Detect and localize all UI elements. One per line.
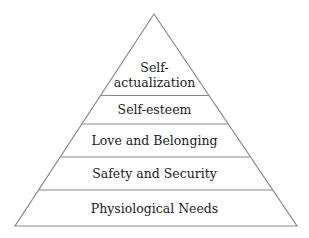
level-love-belonging: Love and Belonging [0,133,309,148]
level-self-actualization-line1: Self- [0,60,309,75]
pyramid-outline [15,14,297,226]
level-safety-security: Safety and Security [0,166,309,181]
level-physiological-needs: Physiological Needs [0,201,309,216]
level-self-actualization-line2: actualization [0,75,309,90]
level-self-esteem: Self-esteem [0,102,309,117]
